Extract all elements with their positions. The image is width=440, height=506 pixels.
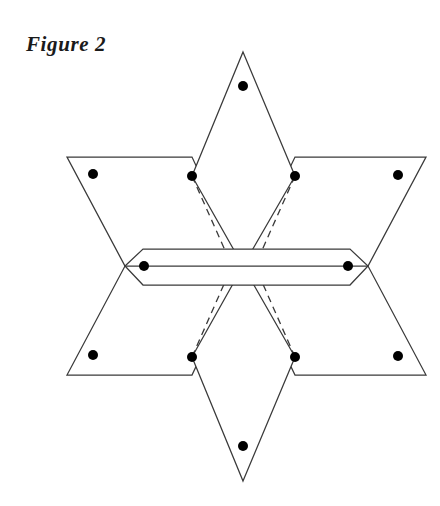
figure-panel: Figure 2 [0,0,440,506]
dot-top-apex [238,81,248,91]
star-net-diagram [0,0,440,506]
dot-right-wing-lower [393,351,403,361]
dot-lower-diamond-right [290,352,300,362]
dot-left-wing-upper [88,169,98,179]
dot-lower-diamond-left [187,352,197,362]
horizontal-bar [125,249,368,285]
dot-upper-diamond-left [187,171,197,181]
dot-bar-left [139,261,149,271]
dot-bar-right [343,261,353,271]
dot-right-wing-upper [393,170,403,180]
dot-left-wing-lower [88,350,98,360]
dot-upper-diamond-right [290,171,300,181]
dot-bottom-apex [238,441,248,451]
horizontal-bar-group [125,249,368,285]
